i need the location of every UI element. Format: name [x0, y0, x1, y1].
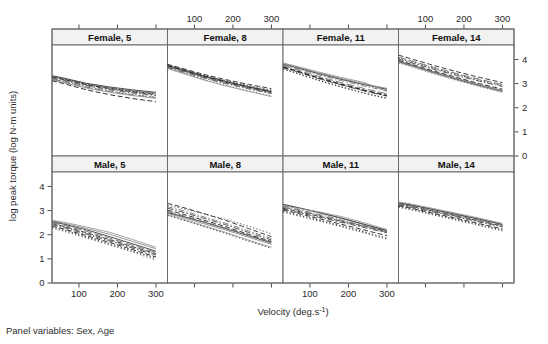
- y-tick-label: 0: [39, 277, 44, 288]
- panel-female-8: 100200300Female, 8: [168, 13, 284, 156]
- x-tick-label: 300: [379, 288, 395, 299]
- panel-frame: [283, 45, 399, 156]
- y-tick-label: 3: [39, 205, 44, 216]
- y-tick-label: 4: [522, 54, 527, 65]
- x-tick-label: 200: [225, 13, 241, 24]
- panel-strip-label: Female, 14: [432, 32, 481, 43]
- y-axis-label-text: log peak torque (log N·m units): [7, 91, 18, 221]
- panel-strip-label: Female, 11: [317, 32, 366, 43]
- x-tick-label: 200: [110, 288, 126, 299]
- y-tick-label: 1: [522, 126, 527, 137]
- panel-strip-label: Male, 5: [94, 159, 126, 170]
- y-tick-label: 3: [522, 78, 527, 89]
- panel-strip-label: Female, 8: [204, 32, 247, 43]
- panel-female-14: 10020030001234Female, 14: [399, 13, 528, 161]
- x-tick-label: 300: [148, 288, 164, 299]
- panel-female-11: Female, 11: [283, 25, 399, 157]
- x-axis-label-text: Velocity (deg.s-1): [257, 306, 328, 318]
- panel-strip-label: Male, 8: [209, 159, 241, 170]
- panel-frame: [399, 45, 515, 156]
- panel-strip-label: Male, 11: [323, 159, 360, 170]
- y-tick-label: 2: [522, 102, 527, 113]
- panel-strip-label: Male, 14: [438, 159, 476, 170]
- x-tick-label: 200: [456, 13, 472, 24]
- panel-male-14: Male, 14: [399, 156, 515, 288]
- x-tick-label: 100: [418, 13, 434, 24]
- panel-frame: [168, 45, 284, 156]
- x-tick-label: 100: [187, 13, 203, 24]
- x-tick-label: 300: [495, 13, 511, 24]
- panel-male-5: 10020030001234Male, 5: [39, 156, 167, 299]
- x-axis-label-tail: ): [325, 306, 328, 317]
- x-tick-label: 200: [341, 288, 357, 299]
- x-axis-label-main: Velocity (deg.s: [257, 306, 319, 317]
- y-tick-label: 4: [39, 181, 44, 192]
- x-tick-label: 300: [264, 13, 280, 24]
- y-tick-label: 0: [522, 150, 527, 161]
- panel-variables-caption: Panel variables: Sex, Age: [6, 325, 114, 336]
- panel-male-8: Male, 8: [168, 156, 284, 288]
- x-tick-label: 100: [71, 288, 87, 299]
- x-tick-label: 100: [302, 288, 318, 299]
- plot-canvas: Female, 5100200300Female, 8Female, 11100…: [0, 0, 548, 344]
- panel-female-5: Female, 5: [52, 25, 168, 157]
- panel-strip-label: Female, 5: [88, 32, 132, 43]
- panel-frame: [168, 172, 284, 283]
- panel-male-11: 100200300Male, 11: [283, 156, 399, 299]
- y-tick-label: 1: [39, 253, 44, 264]
- y-tick-label: 2: [39, 229, 44, 240]
- x-axis-label: Velocity (deg.s-1): [257, 306, 328, 318]
- trellis-figure: Female, 5100200300Female, 8Female, 11100…: [0, 0, 548, 344]
